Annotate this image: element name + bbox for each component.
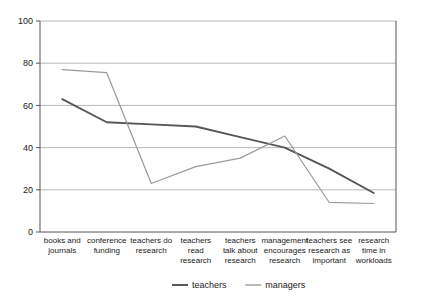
x-category-label: teachers — [225, 236, 256, 245]
y-tick-label: 0 — [28, 227, 33, 237]
x-category-label: research — [136, 246, 167, 255]
y-tick-label: 100 — [18, 16, 33, 26]
x-category-label: research — [269, 256, 300, 265]
y-tick-label: 60 — [23, 101, 33, 111]
x-category-label: management — [261, 236, 308, 245]
x-category-label: time in — [362, 246, 386, 255]
x-category-label: read — [188, 246, 204, 255]
line-chart: 020406080100 books andjournalsconference… — [0, 0, 435, 299]
x-category-label: research as — [308, 246, 350, 255]
x-category-label: research — [358, 236, 389, 245]
y-tick-label: 40 — [23, 143, 33, 153]
x-category-label: funding — [94, 246, 120, 255]
y-tick-label: 20 — [23, 185, 33, 195]
x-category-label: teachers see — [306, 236, 352, 245]
x-category-label: teachers — [180, 236, 211, 245]
chart-canvas: 020406080100 books andjournalsconference… — [0, 0, 435, 299]
x-category-label: talk about — [223, 246, 258, 255]
x-category-label: books and — [44, 236, 81, 245]
legend-label-teachers: teachers — [192, 280, 227, 290]
x-category-label: teachers do — [130, 236, 172, 245]
x-category-label: research — [180, 256, 211, 265]
x-category-label: important — [313, 256, 347, 265]
x-category-label: research — [225, 256, 256, 265]
legend-label-managers: managers — [265, 280, 306, 290]
x-category-label: workloads — [355, 256, 392, 265]
x-category-label: conference — [87, 236, 127, 245]
x-category-label: journals — [47, 246, 76, 255]
x-category-label: encourages — [264, 246, 306, 255]
y-tick-label: 80 — [23, 58, 33, 68]
